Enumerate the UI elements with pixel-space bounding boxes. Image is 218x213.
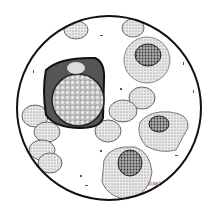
lymphocyte — [124, 37, 170, 83]
signature: RMC — [148, 180, 162, 187]
large-cell — [44, 58, 104, 128]
irregular-cell — [139, 112, 188, 152]
cell-illustration — [0, 0, 218, 213]
